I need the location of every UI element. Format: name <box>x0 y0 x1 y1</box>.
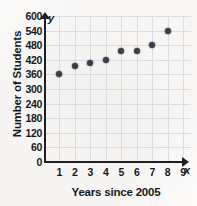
x-tick-label: 5 <box>113 166 129 178</box>
gridline-horizontal <box>44 89 191 90</box>
x-tick-label: 2 <box>67 166 83 178</box>
plot-area <box>44 16 191 162</box>
gridline-horizontal <box>44 74 191 75</box>
y-tick-label: 540 <box>2 25 42 37</box>
gridline-horizontal <box>44 133 191 134</box>
x-tick-label: 1 <box>51 166 67 178</box>
y-tick-label: 360 <box>2 68 42 80</box>
chart-canvas: Number of Students Years since 2005 0601… <box>0 0 197 206</box>
y-tick-label: 420 <box>2 54 42 66</box>
y-tick-label: 0 <box>2 156 42 168</box>
gridline-horizontal <box>44 118 191 119</box>
y-tick-labels: 060120180240300360420480540600 <box>0 0 42 206</box>
y-tick-label: 120 <box>2 127 42 139</box>
gridline-horizontal <box>44 16 191 17</box>
y-tick-label: 180 <box>2 112 42 124</box>
gridline-horizontal <box>44 60 191 61</box>
x-tick-label: 7 <box>144 166 160 178</box>
data-point <box>72 63 78 69</box>
data-point <box>56 71 62 77</box>
x-axis-line <box>44 161 184 163</box>
y-tick-label: 300 <box>2 83 42 95</box>
data-point <box>165 28 171 34</box>
x-tick-label: 9 <box>175 166 191 178</box>
y-axis-symbol: y <box>48 12 54 24</box>
y-tick-label: 60 <box>2 141 42 153</box>
data-point <box>118 48 124 54</box>
data-point <box>149 42 155 48</box>
x-tick-label: 4 <box>98 166 114 178</box>
y-axis-line <box>44 18 46 163</box>
x-tick-label: 3 <box>82 166 98 178</box>
gridline-horizontal <box>44 147 191 148</box>
y-tick-label: 240 <box>2 98 42 110</box>
gridline-horizontal <box>44 45 191 46</box>
x-tick-label: 6 <box>129 166 145 178</box>
data-point <box>134 48 140 54</box>
data-point <box>87 60 93 66</box>
y-tick-label: 600 <box>2 10 42 22</box>
y-tick-label: 480 <box>2 39 42 51</box>
x-axis-title: Years since 2005 <box>40 186 192 198</box>
x-tick-label: 8 <box>160 166 176 178</box>
gridline-horizontal <box>44 104 191 105</box>
data-point <box>103 57 109 63</box>
